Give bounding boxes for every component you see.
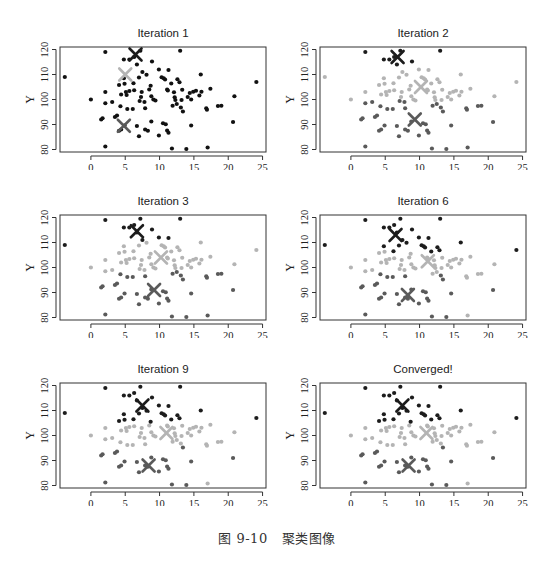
data-point [103,426,107,430]
data-point [143,442,147,446]
data-point [135,460,139,464]
data-point [172,258,176,262]
data-point [125,429,129,433]
data-point [179,434,183,438]
data-point [395,460,399,464]
svg-text:100: 100 [39,92,50,108]
data-point [399,95,403,99]
svg-text:100: 100 [39,260,50,276]
data-point [131,417,135,421]
data-point [426,299,430,303]
data-point [153,434,157,438]
centroid-top-x-icon [130,49,142,61]
data-point [435,102,439,106]
data-point [404,241,408,245]
data-point [197,429,201,433]
data-point [449,291,453,295]
data-point [122,82,126,86]
data-point [131,107,135,111]
data-point [140,90,144,94]
data-point [417,67,421,71]
data-point [118,104,122,108]
data-point [171,272,175,276]
data-point [431,272,435,276]
svg-text:110: 110 [299,235,310,250]
data-point [137,243,141,247]
data-point [127,425,131,429]
centroid-low-x-icon [409,114,421,126]
data-point [409,84,413,88]
data-point [219,440,223,444]
data-point [382,393,386,397]
data-point [164,458,168,462]
data-point [459,90,463,94]
svg-text:20: 20 [223,498,234,506]
data-point [426,236,430,240]
data-point [382,250,386,254]
data-point [400,70,404,74]
data-point [180,256,184,260]
data-point [169,417,173,421]
data-point [189,123,193,127]
data-point [439,273,443,277]
data-point [194,89,198,93]
data-point [89,265,93,269]
data-points [63,217,259,319]
data-point [127,89,131,93]
data-point [363,312,367,316]
data-point [142,100,146,104]
data-point [140,70,144,74]
data-point [432,90,436,94]
data-point [441,445,445,449]
data-point [181,109,185,113]
data-point [232,430,236,434]
data-point [199,72,203,76]
data-point [139,431,143,435]
centroid-mid-x-icon [415,81,427,93]
data-point [395,292,399,296]
data-point [430,146,434,150]
data-point [137,75,141,79]
data-point [208,87,212,91]
data-point [465,276,469,280]
data-point [194,425,198,429]
data-point [387,425,391,429]
data-point [491,120,495,124]
svg-text:Y: Y [23,95,37,104]
data-point [391,275,395,279]
svg-text:100: 100 [39,428,50,444]
data-point [232,262,236,266]
svg-text:120: 120 [39,42,50,58]
svg-text:100: 100 [299,428,310,444]
data-point [131,275,135,279]
data-point [166,424,170,428]
data-point [125,93,129,97]
data-point [435,270,439,274]
data-point [402,436,406,440]
data-point [457,261,461,265]
data-point [424,290,428,294]
data-point [426,68,430,72]
data-point [179,266,183,270]
data-point [170,482,174,486]
svg-text:80: 80 [299,480,310,491]
data-point [118,440,122,444]
data-point [439,441,443,445]
svg-text:0: 0 [348,498,353,506]
data-point [397,75,401,79]
data-point [439,266,443,270]
data-point [178,49,182,53]
data-points [323,217,519,319]
data-point [205,108,209,112]
data-point [426,424,430,428]
data-point [139,95,143,99]
data-point [382,244,386,248]
data-point [177,248,181,252]
data-point [400,90,404,94]
data-point [391,249,395,253]
data-point [360,452,364,456]
data-point [446,95,450,99]
data-point [382,76,386,80]
scatter-panel-iteration-2: Iteration 20510152025X8090100110120Y [260,0,537,170]
data-point [433,431,437,435]
